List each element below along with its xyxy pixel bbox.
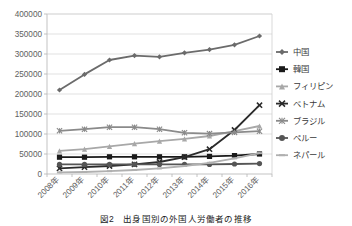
data-point-marker (257, 103, 262, 108)
data-point-marker (207, 154, 212, 159)
figure-caption: 図2 出身国別の外国人労働者の推移 (0, 212, 352, 224)
series-line (60, 36, 260, 90)
y-tick-label: 300000 (15, 50, 43, 59)
y-tick-label: 400000 (15, 10, 43, 19)
x-tick-label: 2012年 (135, 174, 161, 200)
y-tick-label: 100000 (15, 130, 43, 139)
data-point-marker (232, 42, 237, 47)
y-tick-label: 50000 (19, 150, 42, 159)
legend-label: フィリピン (293, 81, 333, 91)
x-tick-label: 2014年 (185, 174, 211, 200)
legend-label: ペルー (293, 133, 317, 143)
data-point-marker (157, 162, 162, 167)
y-tick-label: 0 (37, 170, 42, 179)
y-tick-label: 350000 (15, 30, 43, 39)
legend-item-ネパール[interactable]: ネパール (276, 150, 325, 160)
data-point-marker (257, 161, 262, 166)
data-point-marker (232, 161, 237, 166)
data-point-marker (132, 162, 137, 167)
legend-label: ネパール (293, 150, 325, 160)
y-tick-label: 200000 (15, 90, 43, 99)
legend-label: 韓国 (293, 64, 309, 74)
figure-container: 0500001000001500002000002500003000003500… (0, 0, 352, 226)
legend-label: ブラジル (293, 116, 325, 126)
line-chart: 0500001000001500002000002500003000003500… (0, 0, 352, 210)
data-point-marker (57, 162, 62, 167)
data-point-marker (182, 50, 187, 55)
series-ベトナム (57, 103, 262, 171)
series-中国 (57, 33, 262, 92)
data-point-marker (279, 135, 285, 141)
legend-label: ベトナム (293, 99, 325, 109)
data-point-marker (82, 155, 87, 160)
legend-item-中国[interactable]: 中国 (276, 47, 309, 57)
data-point-marker (132, 154, 137, 159)
data-point-marker (82, 162, 87, 167)
data-point-marker (157, 154, 162, 159)
legend-item-ペルー[interactable]: ペルー (276, 133, 317, 143)
x-tick-label: 2009年 (60, 174, 86, 200)
chart-legend: 中国韓国フィリピンベトナムブラジルペルーネパール (276, 47, 333, 160)
data-point-marker (57, 155, 62, 160)
data-point-marker (107, 162, 112, 167)
series-ペルー (57, 161, 262, 167)
data-point-marker (279, 49, 285, 55)
legend-item-ブラジル[interactable]: ブラジル (276, 116, 325, 126)
legend-item-ベトナム[interactable]: ベトナム (276, 99, 325, 109)
data-point-marker (157, 54, 162, 59)
legend-label: 中国 (293, 47, 309, 57)
data-point-marker (279, 66, 285, 72)
y-tick-label: 250000 (15, 70, 43, 79)
data-point-marker (207, 47, 212, 52)
y-tick-label: 150000 (15, 110, 43, 119)
legend-item-韓国[interactable]: 韓国 (276, 64, 309, 74)
axis-tickmarks (44, 14, 272, 177)
x-tick-label: 2010年 (85, 174, 111, 200)
x-tick-label: 2011年 (111, 174, 136, 199)
x-tick-label: 2016年 (235, 174, 261, 200)
y-axis-labels: 0500001000001500002000002500003000003500… (15, 10, 43, 179)
legend-item-フィリピン[interactable]: フィリピン (276, 81, 333, 91)
data-point-marker (107, 154, 112, 159)
x-tick-label: 2015年 (210, 174, 236, 200)
x-axis-labels: 2008年2009年2010年2011年2012年2013年2014年2015年… (35, 174, 261, 200)
x-tick-label: 2013年 (160, 174, 186, 200)
series-ブラジル (57, 125, 262, 137)
